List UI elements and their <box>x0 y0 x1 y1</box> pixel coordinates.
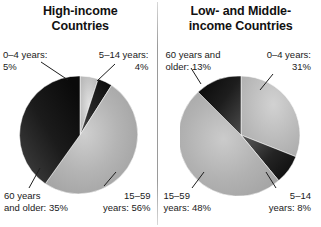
label-age-60-plus-high-income: 60 years and older: 35% <box>4 190 68 213</box>
label-age-15-59-high-income: 15–59 years: 56% <box>103 190 151 213</box>
chart-title-low-middle-income: Low- and Middle- income Countries <box>161 4 321 33</box>
chart-title-high-income: High-income Countries <box>0 4 161 33</box>
pie-chart-figure: High-income Countries <box>0 0 321 227</box>
label-age-0-4-low-middle-income: 0–4 years: 31% <box>267 49 311 72</box>
label-age-0-4-high-income: 0–4 years: 5% <box>3 49 47 72</box>
chart-panel-low-middle-income: Low- and Middle- income Countries <box>161 0 321 227</box>
label-age-60-plus-low-middle-income: 60 years and older: 13% <box>166 49 221 72</box>
label-age-5-14-low-middle-income: 5–14 years: 8% <box>269 190 311 213</box>
label-age-15-59-low-middle-income: 15–59 years: 48% <box>164 190 212 213</box>
pie-low-middle-income <box>180 74 302 196</box>
panel-divider <box>157 2 158 225</box>
pie-high-income <box>19 74 141 196</box>
chart-panel-high-income: High-income Countries <box>0 0 161 227</box>
label-age-5-14-high-income: 5–14 years: 4% <box>99 49 149 72</box>
